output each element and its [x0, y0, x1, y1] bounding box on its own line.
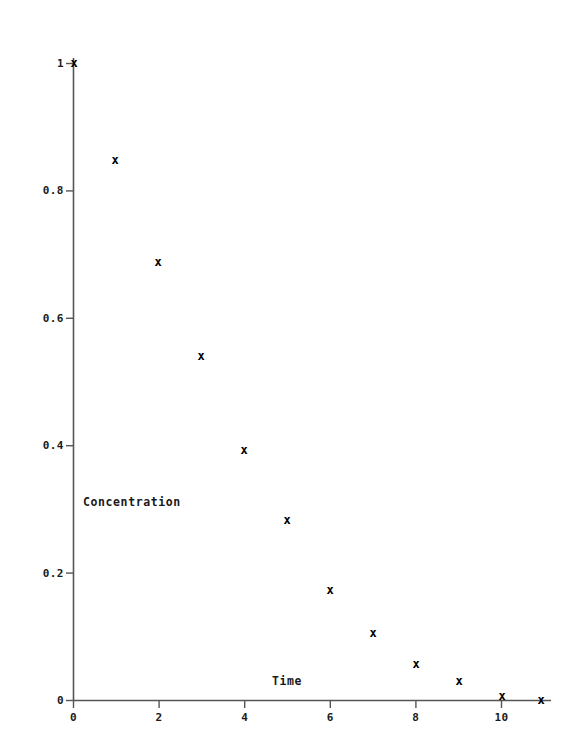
y-tick-label-1: 1 — [20, 58, 64, 69]
scatter-plot-svg — [0, 0, 583, 754]
data-point-marker: x — [408, 658, 424, 670]
data-point-marker: x — [279, 514, 295, 526]
data-point-marker: x — [451, 675, 467, 687]
x-tick-label-0: 0 — [54, 712, 94, 723]
x-tick-label-4: 4 — [225, 712, 265, 723]
y-tick-label-0.8: 0.8 — [20, 185, 64, 196]
data-point-marker: x — [365, 627, 381, 639]
x-tick-label-6: 6 — [310, 712, 350, 723]
data-point-marker: x — [236, 444, 252, 456]
y-axis-title: Concentration — [83, 497, 181, 509]
data-point-marker: x — [193, 350, 209, 362]
y-axis-ticks — [66, 64, 73, 701]
data-point-marker: x — [533, 694, 549, 706]
x-tick-label-2: 2 — [139, 712, 179, 723]
x-tick-label-8: 8 — [396, 712, 436, 723]
chart-canvas: 1 0.8 0.6 0.4 0.2 0 0 2 4 6 8 10 Time Co… — [0, 0, 583, 754]
data-point-marker: x — [322, 584, 338, 596]
data-point-marker: x — [150, 256, 166, 268]
data-point-marker: x — [66, 57, 82, 69]
x-axis-title: Time — [272, 676, 302, 688]
y-tick-label-0.6: 0.6 — [20, 313, 64, 324]
data-point-marker: x — [107, 154, 123, 166]
y-tick-label-0.2: 0.2 — [20, 568, 64, 579]
y-tick-label-0: 0 — [20, 695, 64, 706]
y-tick-label-0.4: 0.4 — [20, 440, 64, 451]
x-tick-label-10: 10 — [482, 712, 522, 723]
data-point-marker: x — [494, 690, 510, 702]
